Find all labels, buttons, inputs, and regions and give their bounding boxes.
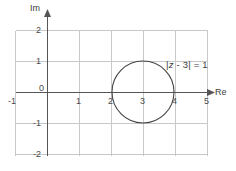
xtick-label-1: 1: [76, 97, 81, 106]
ytick-label--1: -1: [33, 119, 41, 128]
xtick-label-5: 5: [204, 97, 209, 106]
real-axis-arrowhead: [207, 89, 215, 96]
complex-plane-figure: Im Re -1 0 1 2 3 4 5 2 1 -1 -2 |z - 3| =…: [0, 0, 236, 171]
ytick-label-1: 1: [36, 57, 41, 66]
imaginary-axis-label: Im: [30, 4, 40, 13]
xtick-label-3: 3: [140, 97, 145, 106]
real-axis: [16, 89, 216, 96]
ytick-label-2: 2: [36, 26, 41, 35]
imaginary-axis-arrowhead: [44, 9, 51, 17]
circle-equation-label: |z - 3| = 1: [166, 60, 208, 70]
xtick-label--1: -1: [8, 97, 16, 106]
xtick-label-4: 4: [172, 97, 177, 106]
xtick-label-0: 0: [39, 84, 44, 93]
real-axis-label: Re: [215, 88, 227, 97]
xtick-label-2: 2: [108, 97, 113, 106]
ytick-label--2: -2: [33, 150, 41, 159]
circle-equation-rest: - 3| = 1: [174, 59, 208, 70]
